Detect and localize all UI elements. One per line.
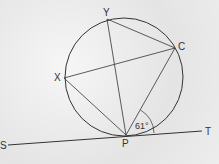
chord-CP [126, 48, 175, 135]
chord-YP [107, 19, 126, 135]
label-C: C [178, 41, 185, 52]
chord-YC [107, 19, 175, 48]
circle-tangent-diagram: Y C X P S T 61° [0, 0, 219, 164]
label-T: T [205, 126, 211, 137]
angle-label: 61° [135, 121, 149, 131]
label-Y: Y [103, 7, 110, 18]
circle [65, 18, 183, 136]
label-S: S [0, 140, 7, 151]
label-X: X [54, 72, 61, 83]
chord-XC [64, 48, 175, 78]
label-P: P [122, 138, 129, 149]
diagram-canvas: Y C X P S T 61° [0, 0, 219, 164]
